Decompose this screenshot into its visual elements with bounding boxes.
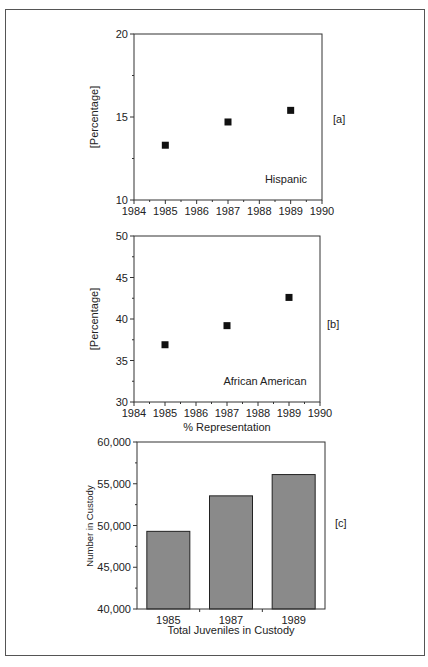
chart-c-panel-label: [c]	[335, 517, 347, 529]
chart-b-xtick-label: 1984	[122, 407, 146, 419]
chart-a-xtick-label: 1990	[310, 205, 334, 217]
chart-b-data-point	[224, 322, 231, 329]
chart-a-data-point	[225, 118, 232, 125]
chart-a-xtick-label: 1989	[278, 205, 302, 217]
chart-b-xlabel: % Representation	[183, 421, 270, 433]
chart-a-panel-label: [a]	[333, 113, 345, 125]
figure-canvas: 101520 1984198519861987198819891990 [Per…	[0, 0, 428, 667]
chart-b-panel-label: [b]	[327, 318, 339, 330]
chart-a-ylabel: [Percentage]	[88, 86, 100, 148]
chart-b-ytick-label: 40	[116, 313, 128, 325]
chart-b-xtick-label: 1987	[215, 407, 239, 419]
chart-b-data-point	[286, 294, 293, 301]
chart-a-ytick-label: 20	[116, 28, 128, 40]
chart-b-xtick-label: 1986	[184, 407, 208, 419]
chart-a-ytick-label: 15	[116, 111, 128, 123]
chart-b-xtick-label: 1985	[153, 407, 177, 419]
chart-c-ylabel: Number in Custody	[84, 485, 95, 567]
chart-a-data-point	[162, 142, 169, 149]
chart-c: 40,00045,00050,00055,00060,000 198519871…	[84, 436, 347, 636]
chart-b: 3035404550 1984198519861987198819891990 …	[88, 230, 339, 433]
chart-b-xtick-label: 1989	[277, 407, 301, 419]
chart-c-xlabel: Total Juveniles in Custody	[167, 624, 295, 636]
chart-c-bar-1989	[272, 475, 315, 609]
chart-a-xtick-label: 1985	[153, 205, 177, 217]
chart-b-ylabel: [Percentage]	[88, 288, 100, 350]
chart-b-ytick-label: 35	[116, 355, 128, 367]
chart-a-data-point	[287, 107, 294, 114]
chart-a-xtick-label: 1988	[247, 205, 271, 217]
chart-c-ytick-label: 40,000	[97, 603, 131, 615]
chart-a-annotation: Hispanic	[265, 173, 308, 185]
chart-c-bar-1985	[147, 531, 190, 609]
chart-a: 101520 1984198519861987198819891990 [Per…	[88, 28, 345, 217]
chart-a-xtick-label: 1987	[216, 205, 240, 217]
chart-c-ytick-label: 45,000	[97, 561, 131, 573]
chart-c-ytick-label: 60,000	[97, 436, 131, 448]
chart-c-bar-1987	[210, 496, 253, 609]
chart-b-xtick-label: 1990	[308, 407, 332, 419]
chart-c-ytick-label: 55,000	[97, 478, 131, 490]
chart-b-ytick-label: 45	[116, 272, 128, 284]
chart-b-data-point	[162, 341, 169, 348]
chart-b-annotation: African American	[223, 375, 306, 387]
chart-b-xtick-label: 1988	[246, 407, 270, 419]
chart-a-xtick-label: 1984	[122, 205, 146, 217]
chart-b-ytick-label: 50	[116, 230, 128, 242]
chart-c-ytick-label: 50,000	[97, 520, 131, 532]
chart-a-xtick-label: 1986	[184, 205, 208, 217]
